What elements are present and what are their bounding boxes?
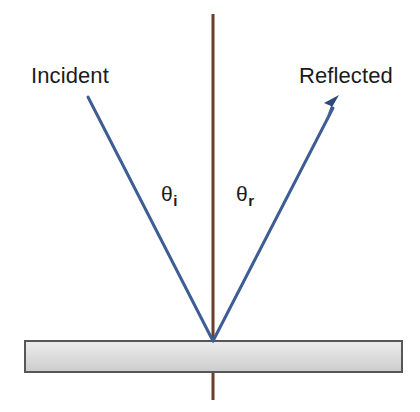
- theta-symbol-incidence: θ: [161, 182, 173, 205]
- reflection-diagram: Incident Reflected θi θr: [0, 0, 420, 412]
- reflected-ray-label: Reflected: [299, 65, 393, 87]
- reflecting-surface-slab: [25, 341, 402, 372]
- incident-ray-label: Incident: [31, 65, 109, 87]
- theta-subscript-reflection: r: [248, 192, 254, 209]
- diagram-canvas: [0, 0, 420, 412]
- angle-of-incidence-label: θi: [161, 183, 177, 208]
- incident-ray: [88, 97, 213, 341]
- angle-of-reflection-label: θr: [236, 183, 254, 208]
- theta-subscript-incidence: i: [173, 192, 177, 209]
- theta-symbol-reflection: θ: [236, 182, 248, 205]
- reflected-ray: [213, 108, 333, 341]
